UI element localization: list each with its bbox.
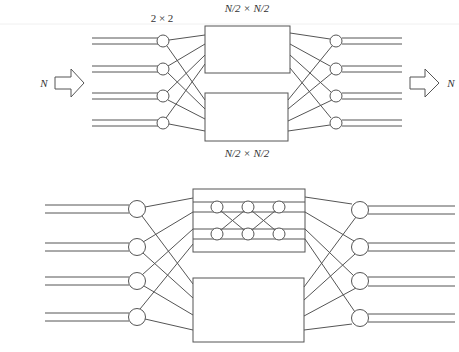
- inner-switch-icon: [211, 201, 223, 213]
- switch-icon: [157, 117, 169, 129]
- switch-icon: [129, 239, 146, 256]
- lower-subnetwork-box: [205, 93, 288, 141]
- input-switches: [129, 201, 146, 326]
- inner-switch-icon: [273, 228, 285, 240]
- switch-icon: [157, 35, 169, 47]
- lower-subnetwork-label: N/2 × N/2: [224, 147, 270, 159]
- output-lines: [342, 38, 402, 126]
- upper-subnetwork-box: [205, 26, 290, 73]
- lower-subnetwork-box: [193, 278, 304, 342]
- upper-subnetwork-box: [193, 189, 305, 252]
- switch-icon: [330, 117, 342, 129]
- switch-icon: [330, 35, 342, 47]
- switch-icon: [157, 90, 169, 102]
- inner-switch-icon: [242, 228, 254, 240]
- switch-icon: [330, 63, 342, 75]
- output-stage-links: [304, 197, 356, 330]
- output-stage-links: [288, 33, 332, 131]
- output-arrow-icon: [410, 69, 439, 97]
- switch-icon: [352, 273, 369, 290]
- switch-icon: [352, 310, 369, 327]
- input-stage-links: [140, 198, 193, 330]
- output-switches: [330, 35, 342, 129]
- top-diagram: 2 × 2 N/2 × N/2 N/2 × N/2 N N: [39, 2, 455, 159]
- switch-icon: [157, 63, 169, 75]
- input-count-label: N: [39, 77, 48, 89]
- switch-size-label: 2 × 2: [151, 12, 174, 24]
- upper-subnetwork-label: N/2 × N/2: [224, 2, 270, 14]
- input-arrow-icon: [55, 69, 84, 97]
- output-lines: [368, 206, 455, 322]
- input-lines: [92, 38, 158, 126]
- inner-switch-icon: [273, 201, 285, 213]
- inner-switch-icon: [242, 201, 254, 213]
- input-lines: [45, 205, 129, 321]
- inner-switch-icon: [211, 228, 223, 240]
- bottom-diagram: [45, 189, 455, 342]
- input-switches: [157, 35, 169, 129]
- switch-icon: [129, 273, 146, 290]
- switch-icon: [352, 202, 369, 219]
- input-stage-links: [166, 35, 205, 131]
- switch-icon: [129, 309, 146, 326]
- switch-icon: [352, 239, 369, 256]
- upper-subnetwork-expanded: [193, 189, 305, 252]
- benes-network-figure: 2 × 2 N/2 × N/2 N/2 × N/2 N N: [0, 0, 459, 352]
- output-count-label: N: [446, 77, 455, 89]
- switch-icon: [129, 201, 146, 218]
- switch-icon: [330, 90, 342, 102]
